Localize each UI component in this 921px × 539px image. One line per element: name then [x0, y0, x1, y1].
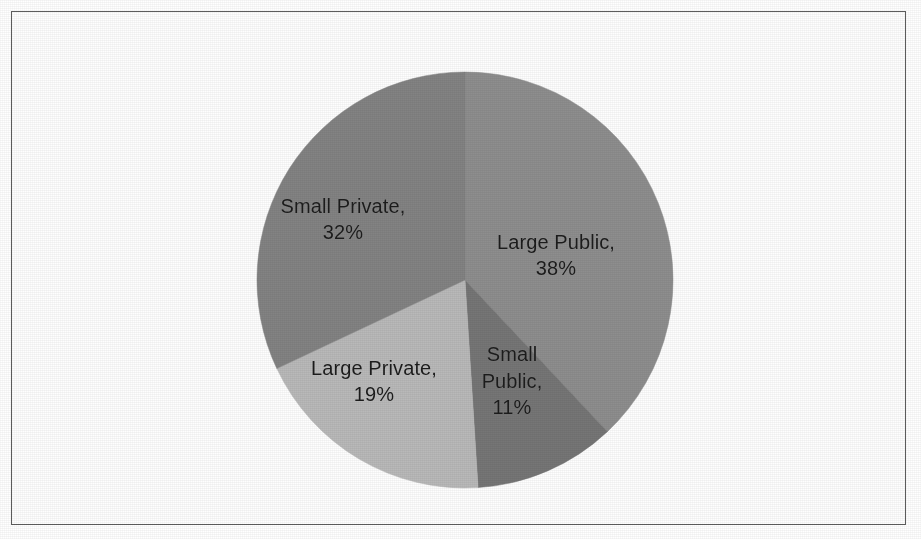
pie-slice-label-small-private: Small Private, 32%	[223, 193, 463, 246]
pie-slice-label-large-public: Large Public, 38%	[436, 229, 676, 282]
chart-page: Large Public, 38% Small Public, 11% Larg…	[0, 0, 921, 539]
pie-slice-label-large-private: Large Private, 19%	[254, 355, 494, 408]
pie-chart: Large Public, 38% Small Public, 11% Larg…	[0, 0, 921, 539]
